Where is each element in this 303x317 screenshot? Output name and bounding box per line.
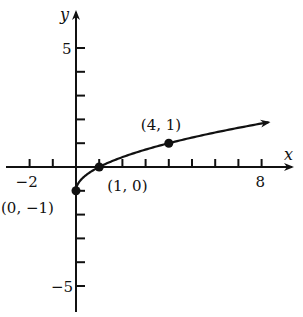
function-graph: −285−5 x y (0, −1)(1, 0)(4, 1) bbox=[0, 0, 303, 317]
point-label: (1, 0) bbox=[107, 177, 147, 195]
x-axis-label: x bbox=[284, 145, 293, 164]
x-tick-label: −2 bbox=[16, 173, 38, 191]
data-point bbox=[95, 163, 104, 172]
x-axis-ticks bbox=[30, 159, 262, 167]
x-tick-label: 8 bbox=[256, 173, 266, 191]
data-point bbox=[72, 186, 81, 195]
y-tick-label: −5 bbox=[51, 278, 73, 296]
data-point bbox=[164, 139, 173, 148]
point-label: (4, 1) bbox=[141, 116, 181, 134]
y-axis-label: y bbox=[59, 5, 70, 24]
point-label: (0, −1) bbox=[1, 199, 54, 217]
y-tick-label: 5 bbox=[62, 40, 72, 58]
